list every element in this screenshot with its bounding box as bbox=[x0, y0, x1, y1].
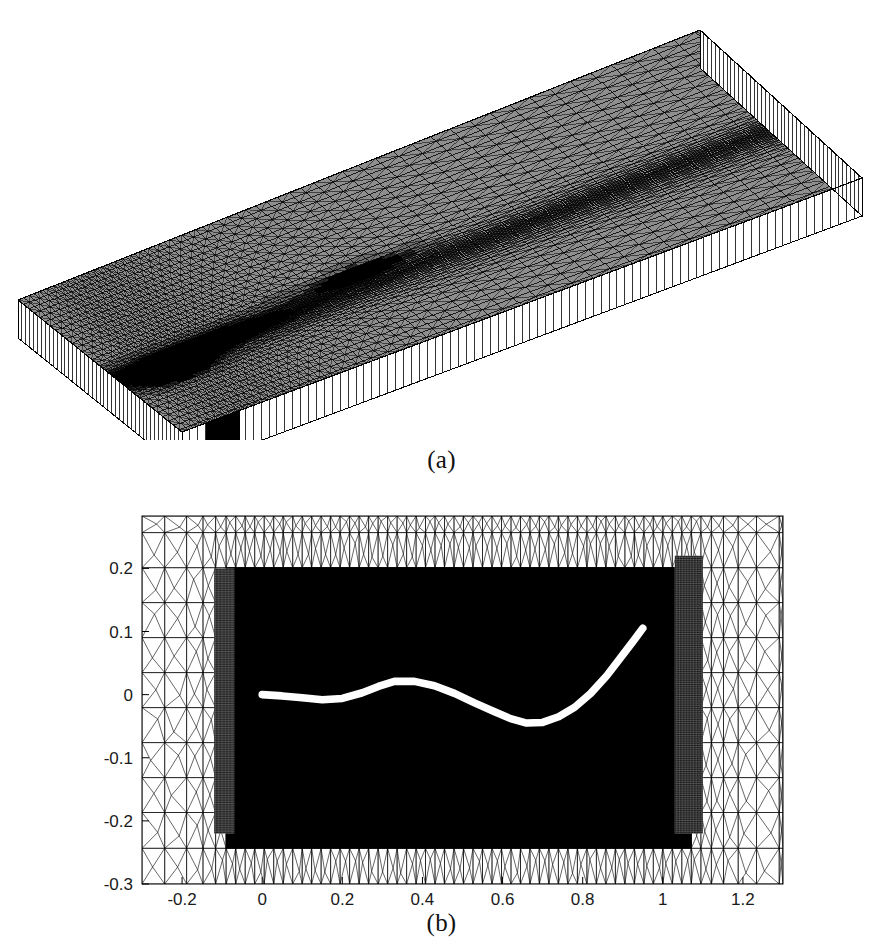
mesh-3d-svg bbox=[0, 0, 883, 440]
subfigure-label-b: (b) bbox=[0, 910, 883, 935]
y-tick-label: 0.2 bbox=[109, 559, 133, 578]
y-tick-label: -0.2 bbox=[104, 812, 133, 831]
panel-a-3d-mesh bbox=[0, 0, 883, 485]
x-tick-label: 0.6 bbox=[491, 890, 515, 909]
x-tick-label: 1 bbox=[658, 890, 667, 909]
x-tick-label: 0.4 bbox=[411, 890, 435, 909]
x-tick-label: 0.8 bbox=[571, 890, 595, 909]
x-tick-label: -0.2 bbox=[167, 890, 196, 909]
y-tick-label: 0 bbox=[124, 686, 133, 705]
y-tick-label: 0.1 bbox=[109, 623, 133, 642]
x-tick-label: 0 bbox=[257, 890, 266, 909]
panel-b-2d-mesh: -0.200.20.40.60.811.20.20.10-0.1-0.2-0.3 bbox=[0, 485, 883, 951]
mesh-2d-svg: -0.200.20.40.60.811.20.20.10-0.1-0.2-0.3 bbox=[0, 485, 883, 951]
y-tick-label: -0.1 bbox=[104, 749, 133, 768]
y-tick-label: -0.3 bbox=[104, 875, 133, 894]
figure-root: (a) -0.200.20.40.60.811.20.20.10-0.1-0.2… bbox=[0, 0, 883, 951]
x-tick-label: 0.2 bbox=[330, 890, 354, 909]
x-tick-label: 1.2 bbox=[731, 890, 755, 909]
subfigure-label-a: (a) bbox=[0, 447, 883, 472]
